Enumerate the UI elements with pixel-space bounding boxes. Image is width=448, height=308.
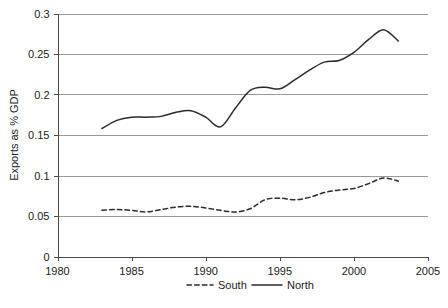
legend-label-south: South bbox=[218, 279, 247, 291]
data-series-group bbox=[102, 30, 398, 212]
y-axis-tick-labels: 00.050.10.150.20.250.3 bbox=[28, 8, 49, 263]
series-line-south bbox=[102, 178, 398, 212]
series-line-north bbox=[102, 30, 398, 129]
x-tick-label: 1985 bbox=[119, 265, 143, 277]
x-tick-label: 2000 bbox=[342, 265, 366, 277]
x-tick-label: 1995 bbox=[268, 265, 292, 277]
line-chart: 00.050.10.150.20.250.3 19801985199019952… bbox=[0, 0, 448, 308]
gridlines-group bbox=[58, 15, 429, 258]
x-tick-label: 1980 bbox=[45, 265, 69, 277]
legend-label-north: North bbox=[287, 279, 314, 291]
y-axis-title-text: Exports as % GDP bbox=[8, 89, 20, 181]
y-tick-label: 0.3 bbox=[34, 8, 49, 20]
y-tick-label: 0.15 bbox=[28, 129, 49, 141]
tick-marks-group bbox=[54, 15, 429, 261]
y-tick-label: 0.25 bbox=[28, 48, 49, 60]
y-axis-title: Exports as % GDP bbox=[8, 89, 20, 181]
y-tick-label: 0.2 bbox=[34, 89, 49, 101]
x-axis-tick-labels: 198019851990199520002005 bbox=[45, 265, 440, 277]
chart-container: 00.050.10.150.20.250.3 19801985199019952… bbox=[0, 0, 448, 308]
x-tick-label: 2005 bbox=[416, 265, 440, 277]
y-tick-label: 0.1 bbox=[34, 170, 49, 182]
x-tick-label: 1990 bbox=[193, 265, 217, 277]
y-tick-label: 0 bbox=[43, 251, 49, 263]
y-tick-label: 0.05 bbox=[28, 210, 49, 222]
chart-legend: SouthNorth bbox=[187, 279, 314, 291]
